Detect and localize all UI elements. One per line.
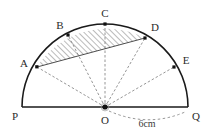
label-Q: Q	[192, 110, 200, 122]
vertex-dot-D	[143, 36, 146, 39]
shaded-segment-region	[37, 29, 145, 67]
vertex-dot-O	[102, 104, 107, 109]
vertex-dot-B	[66, 33, 69, 36]
geometry-diagram: A B C D E O P Q 6cm	[0, 0, 210, 135]
radius-measure-label: 6cm	[138, 118, 155, 129]
radius-line-OE	[105, 67, 174, 107]
vertex-dot-A	[35, 65, 38, 68]
geometry-figure: A B C D E O P Q 6cm	[0, 0, 210, 135]
vertex-dot-E	[172, 65, 175, 68]
label-O: O	[101, 114, 109, 126]
vertex-dot-C	[103, 22, 106, 25]
label-P: P	[12, 110, 18, 122]
radius-line-OD	[105, 38, 145, 107]
label-E: E	[183, 54, 190, 66]
radius-line-OA	[37, 67, 105, 107]
label-A: A	[20, 57, 28, 69]
label-C: C	[101, 7, 108, 19]
label-D: D	[151, 21, 159, 33]
label-B: B	[56, 19, 63, 31]
